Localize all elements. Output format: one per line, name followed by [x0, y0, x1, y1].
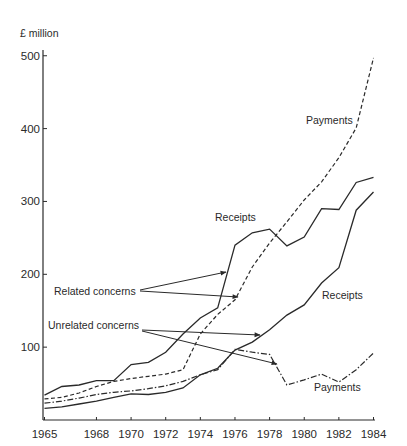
x-tick-label: 1976 — [222, 428, 248, 440]
label-unrelated-concerns: Unrelated concerns — [48, 319, 139, 331]
label-related-concerns: Related concerns — [54, 285, 136, 297]
annotations: Receipts Payments Receipts Payments Rela… — [48, 114, 363, 393]
x-tick-label: 1978 — [257, 428, 283, 440]
label-unrelated-receipts: Receipts — [322, 289, 363, 301]
label-unrelated-payments: Payments — [314, 381, 361, 393]
arrow-related-to-receipts — [140, 272, 226, 290]
y-tick-label: 300 — [21, 195, 40, 207]
x-tick-label: 1968 — [84, 428, 110, 440]
axes — [43, 50, 375, 420]
y-tick-label: 400 — [21, 123, 40, 135]
x-tick-label: 1984 — [361, 428, 387, 440]
arrow-unrelated-to-receipts — [142, 330, 260, 335]
x-tick-label: 1974 — [188, 428, 214, 440]
series-layer — [45, 58, 374, 408]
label-related-receipts: Receipts — [215, 211, 256, 223]
annotation-arrows — [140, 272, 277, 364]
y-tick-label: 100 — [21, 341, 40, 353]
arrow-related-to-payments — [140, 291, 238, 297]
y-tick-label: 500 — [21, 50, 40, 62]
y-axis-unit-label: £ million — [20, 27, 59, 39]
arrow-unrelated-to-payments — [142, 331, 277, 364]
label-related-payments: Payments — [306, 114, 353, 126]
x-tick-label: 1972 — [153, 428, 179, 440]
series-unrelated-payments — [45, 349, 374, 403]
x-tick-label: 1980 — [291, 428, 317, 440]
line-chart: £ million 100200300400500 19651968197019… — [0, 0, 407, 446]
y-tick-label: 200 — [21, 268, 40, 280]
x-tick-label: 1982 — [326, 428, 352, 440]
x-tick-label: 1970 — [118, 428, 144, 440]
x-tick-label: 1965 — [32, 428, 58, 440]
